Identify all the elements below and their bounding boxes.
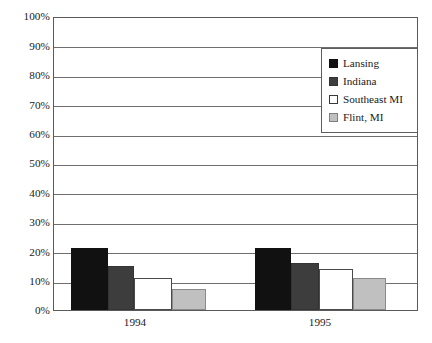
legend-item-southeast-mi: Southeast MI — [322, 90, 417, 108]
y-axis-tick-label: 70% — [4, 100, 50, 111]
legend-item-label: Flint, MI — [343, 111, 383, 123]
bar-1995-indiana — [291, 263, 319, 310]
bar-1994-flint-mi — [172, 289, 206, 310]
x-axis-tick-label: 1994 — [105, 316, 165, 329]
gridline — [54, 194, 417, 195]
legend-swatch-lansing-icon — [329, 59, 338, 68]
gridline — [54, 224, 417, 225]
y-axis-tick-label: 100% — [4, 11, 50, 22]
y-axis: 100%90%80%70%60%50%40%30%20%10%0% — [0, 0, 50, 343]
y-axis-tick-label: 0% — [4, 305, 50, 316]
legend-item-label: Indiana — [343, 75, 377, 87]
legend-item-indiana: Indiana — [322, 72, 417, 90]
y-axis-tick-label: 40% — [4, 188, 50, 199]
y-axis-tick-label: 30% — [4, 217, 50, 228]
legend-item-flint-mi: Flint, MI — [322, 108, 417, 126]
y-axis-tick-label: 10% — [4, 276, 50, 287]
y-axis-tick-label: 20% — [4, 247, 50, 258]
x-axis-tick-label: 1995 — [290, 316, 350, 329]
legend-item-label: Southeast MI — [343, 93, 403, 105]
y-axis-tick-label: 60% — [4, 129, 50, 140]
bar-chart: 100%90%80%70%60%50%40%30%20%10%0% 199419… — [0, 0, 432, 343]
bar-1994-southeast-mi — [134, 278, 172, 310]
gridline — [54, 165, 417, 166]
legend-swatch-southeast-mi-icon — [329, 95, 338, 104]
legend-item-lansing: Lansing — [322, 54, 417, 72]
bar-1994-lansing — [71, 248, 108, 310]
bar-1995-flint-mi — [353, 278, 386, 310]
legend-swatch-flint-mi-icon — [329, 113, 338, 122]
bar-1994-indiana — [108, 266, 134, 310]
bar-1995-southeast-mi — [319, 269, 353, 310]
legend-item-label: Lansing — [343, 57, 379, 69]
y-axis-tick-label: 80% — [4, 70, 50, 81]
legend-swatch-indiana-icon — [329, 77, 338, 86]
bar-1995-lansing — [255, 248, 291, 310]
gridline — [54, 136, 417, 137]
legend: LansingIndianaSoutheast MIFlint, MI — [321, 48, 418, 133]
y-axis-tick-label: 50% — [4, 158, 50, 169]
y-axis-tick-label: 90% — [4, 41, 50, 52]
gridline — [54, 253, 417, 254]
